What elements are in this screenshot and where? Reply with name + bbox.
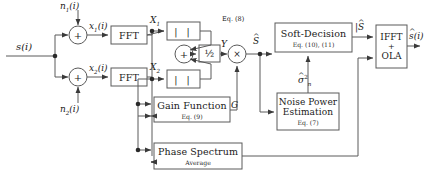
junction-X1 xyxy=(150,29,155,34)
label-estimated-spectrum-hat: ^ xyxy=(253,33,259,41)
summer-3-symbol: + xyxy=(175,45,193,63)
label-noise-1-arg: (i) xyxy=(69,1,79,11)
label-averaged-magnitude: Y xyxy=(221,40,227,49)
label-sigma-sup: 2 xyxy=(304,74,308,80)
label-spectrum-1: X1 xyxy=(150,16,160,27)
box-phase xyxy=(154,143,242,169)
label-noise-power-sigma: ^σ2n xyxy=(298,75,311,87)
summer-1-symbol: + xyxy=(69,26,87,44)
annotation-eq8-text: Eq. (8) xyxy=(222,15,244,23)
label-noise-1: n1(i) xyxy=(60,2,79,13)
label-noise-2: n2(i) xyxy=(60,105,79,116)
label-output-group: ^s xyxy=(409,32,414,41)
label-sigma-hat: ^ xyxy=(298,72,304,80)
summer-2-symbol: + xyxy=(69,68,87,86)
label-soft-decision-output: |^S xyxy=(355,23,364,32)
label-spectrum-2: X2 xyxy=(150,63,160,74)
label-noisy-2: x2(i) xyxy=(89,64,108,75)
junction-gain-tap xyxy=(136,102,141,107)
box-mag1 xyxy=(167,22,200,40)
multiplier-symbol: × xyxy=(228,45,246,63)
box-ifft xyxy=(376,25,407,68)
label-soft-decision-group: ^S xyxy=(358,23,364,32)
junction-X2 xyxy=(150,77,155,82)
label-gain: G xyxy=(231,101,238,110)
box-fft2 xyxy=(111,68,147,86)
label-sigma-group: ^σ xyxy=(298,76,304,85)
block-diagram-canvas: FFT FFT | | | | ½ Soft-Decision Eq. (10)… xyxy=(0,0,424,184)
label-noisy-2-arg: (i) xyxy=(98,63,108,73)
label-averaged-magnitude-base: Y xyxy=(221,39,227,49)
box-noise xyxy=(277,93,339,130)
label-noisy-1: x1(i) xyxy=(89,22,108,33)
junction-s-split xyxy=(53,54,58,59)
box-mag2 xyxy=(167,70,200,88)
label-estimated-spectrum-group: ^S xyxy=(253,37,259,46)
label-output-arg: (i) xyxy=(414,31,424,41)
label-output-signal: ^s(i) xyxy=(409,32,424,41)
box-fft1 xyxy=(111,26,147,44)
box-soft xyxy=(275,23,352,52)
label-output-hat: ^ xyxy=(409,28,414,36)
label-noisy-1-arg: (i) xyxy=(98,21,108,31)
label-sigma-sub: n xyxy=(308,81,312,87)
label-spectrum-1-sub: 1 xyxy=(156,21,160,27)
label-input-signal-arg: (i) xyxy=(21,41,32,52)
label-estimated-spectrum: ^S xyxy=(253,37,259,46)
junction-Shat xyxy=(258,52,263,57)
label-soft-decision-hat: ^ xyxy=(358,19,364,27)
label-noise-2-arg: (i) xyxy=(69,104,79,114)
junction-phase-tap xyxy=(136,148,141,153)
annotation-eq8: Eq. (8) xyxy=(222,16,244,23)
wire-fft1-to-X1 xyxy=(147,31,164,35)
label-spectrum-2-sub: 2 xyxy=(156,68,160,74)
label-gain-base: G xyxy=(231,100,238,110)
box-gain xyxy=(154,97,230,122)
label-input-signal: s(i) xyxy=(16,42,32,52)
